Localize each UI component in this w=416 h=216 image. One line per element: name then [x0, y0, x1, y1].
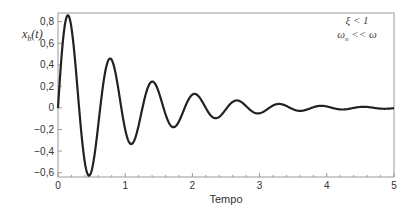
- x-tick-label: 0: [55, 180, 61, 191]
- y-tick-label: −0,6: [34, 167, 54, 178]
- x-tick-label: 3: [257, 180, 263, 191]
- y-axis-title: xh(t): [21, 27, 43, 43]
- damped-oscillation-chart: 012345 −0,6−0,4−0,200,20,40,60,8 Tempo x…: [0, 0, 416, 216]
- y-tick-label: −0,4: [34, 146, 54, 157]
- x-tick-label: 4: [324, 180, 330, 191]
- x-tick-label: 2: [190, 180, 196, 191]
- y-tick-label: 0: [48, 102, 54, 113]
- annotation-2: ωn << ω: [337, 28, 377, 43]
- y-tick-label: 0,8: [40, 16, 54, 27]
- annotations: ξ < 1ωn << ω: [337, 14, 377, 43]
- x-tick-label: 1: [122, 180, 128, 191]
- y-axis-title-arg: (t): [31, 27, 42, 41]
- x-tick-label: 5: [391, 180, 397, 191]
- x-axis-title: Tempo: [209, 193, 242, 205]
- annotation-1: ξ < 1: [345, 14, 368, 27]
- y-tick-label: 0,2: [40, 81, 54, 92]
- y-tick-label: 0,4: [40, 59, 54, 70]
- x-axis-ticks: 012345: [55, 173, 397, 191]
- y-tick-label: −0,2: [34, 124, 54, 135]
